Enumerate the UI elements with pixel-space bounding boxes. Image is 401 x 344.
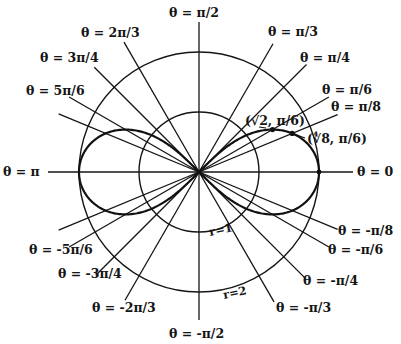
point-marker — [317, 170, 322, 175]
ray-line — [69, 172, 199, 247]
ray-label: θ = π — [3, 164, 40, 179]
ray-label: θ = -π/2 — [169, 326, 224, 341]
ray-line — [69, 97, 199, 172]
ray-line — [199, 172, 338, 229]
ray-label: θ = π/6 — [322, 82, 372, 97]
ray-label: θ = π/8 — [331, 99, 381, 114]
ray-label: θ = π/4 — [300, 50, 350, 65]
ray-line — [124, 42, 199, 172]
ray-label: θ = -π/3 — [276, 300, 331, 315]
ray-line — [199, 44, 273, 172]
ray-label: θ = -π/4 — [303, 273, 358, 288]
point-label: (√2, π/6) — [245, 113, 305, 128]
ray-label: θ = 5π/6 — [26, 83, 85, 98]
point-label: (∜8, π/6) — [307, 131, 367, 146]
ray-label: θ = 0 — [357, 164, 394, 179]
ray-label: θ = 3π/4 — [40, 50, 99, 65]
circle-label: r=2 — [222, 283, 248, 302]
ray-label: θ = -3π/4 — [58, 266, 122, 281]
ray-label: θ = -2π/3 — [92, 300, 156, 315]
point-marker — [290, 131, 295, 136]
polar-diagram: θ = π/2θ = π/3θ = π/4θ = π/6θ = π/8θ = 0… — [0, 0, 401, 344]
ray-line — [125, 172, 199, 300]
ray-label: θ = π/3 — [268, 24, 318, 39]
ray-label: θ = -5π/6 — [29, 242, 93, 257]
circle-label: r=1 — [208, 220, 234, 239]
ray-label: θ = 2π/3 — [81, 25, 140, 40]
ray-label: θ = π/2 — [169, 5, 219, 20]
ray-label: θ = -π/8 — [338, 223, 393, 238]
ray-label: θ = -π/6 — [328, 242, 383, 257]
polar-plot-canvas: θ = π/2θ = π/3θ = π/4θ = π/6θ = π/8θ = 0… — [0, 0, 401, 344]
